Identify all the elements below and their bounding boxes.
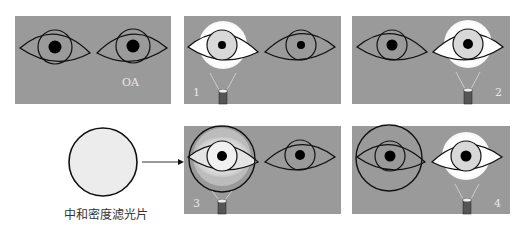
panel-label-3: 3: [193, 197, 200, 210]
pupil: [127, 40, 140, 53]
eye-left: [20, 30, 90, 64]
pupil: [218, 41, 226, 49]
panel-label-4: 4: [494, 197, 501, 210]
penlight: [455, 184, 479, 214]
eye-right: [265, 140, 335, 170]
eye-right: [265, 30, 335, 60]
pupil: [387, 40, 398, 51]
eye-right-illuminated: [432, 141, 502, 171]
eye-left: [357, 30, 427, 60]
neutral-density-filter: [69, 128, 137, 196]
pupil: [297, 41, 305, 49]
eye-left-illuminated: [188, 30, 258, 60]
eye-left: [357, 141, 425, 171]
penlight: [456, 72, 480, 104]
pupil: [463, 39, 473, 49]
pupil: [295, 150, 305, 160]
eye-right: [97, 29, 167, 63]
panel-oa-content: OA: [20, 29, 167, 89]
panel-4-content: 4: [356, 125, 502, 214]
filter-caption: 中和密度滤光片: [64, 205, 148, 222]
pupil: [217, 151, 227, 161]
arrow: [142, 159, 184, 165]
panel-1-content: 1: [188, 21, 335, 104]
pupil: [49, 41, 62, 54]
panel-label-oa: OA: [122, 76, 140, 89]
eye-right-illuminated: [433, 29, 503, 60]
penlight: [210, 73, 236, 104]
panel-3-content: 3: [188, 126, 335, 214]
penlight: [212, 191, 232, 214]
panel-2-content: 2: [357, 20, 503, 104]
pupil: [461, 151, 472, 162]
panel-label-1: 1: [193, 86, 200, 99]
panel-label-2: 2: [495, 86, 502, 99]
diagram-canvas: OA 1: [0, 0, 522, 229]
pupil: [385, 151, 396, 162]
